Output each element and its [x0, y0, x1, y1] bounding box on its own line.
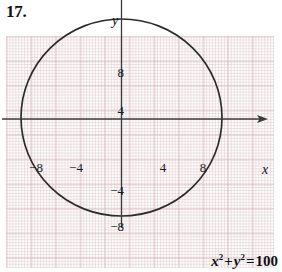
- y-tick-label-8: 8: [102, 65, 124, 81]
- equation-constant: 100: [256, 253, 279, 269]
- y-axis-label: y: [112, 13, 118, 29]
- equation-plus: +: [223, 253, 234, 269]
- graph-canvas: [0, 0, 276, 236]
- x-tick-label-minus8: −8: [24, 160, 48, 176]
- x-tick-label-4: 4: [152, 160, 174, 176]
- y-tick-label-minus4: −4: [96, 183, 124, 199]
- graph-figure: 17. −8 −4 4 8 8 4 −4 −8 x y x2+y2=100: [0, 0, 282, 272]
- y-tick-label-minus8: −8: [96, 219, 124, 235]
- equation-equals: =: [245, 253, 256, 269]
- equation-annotation: x2+y2=100: [211, 252, 278, 270]
- x-tick-label-8: 8: [192, 160, 214, 176]
- x-tick-label-minus4: −4: [64, 160, 88, 176]
- x-axis-label: x: [262, 162, 268, 178]
- y-tick-label-4: 4: [102, 103, 124, 119]
- equation-x-var: x: [211, 253, 219, 269]
